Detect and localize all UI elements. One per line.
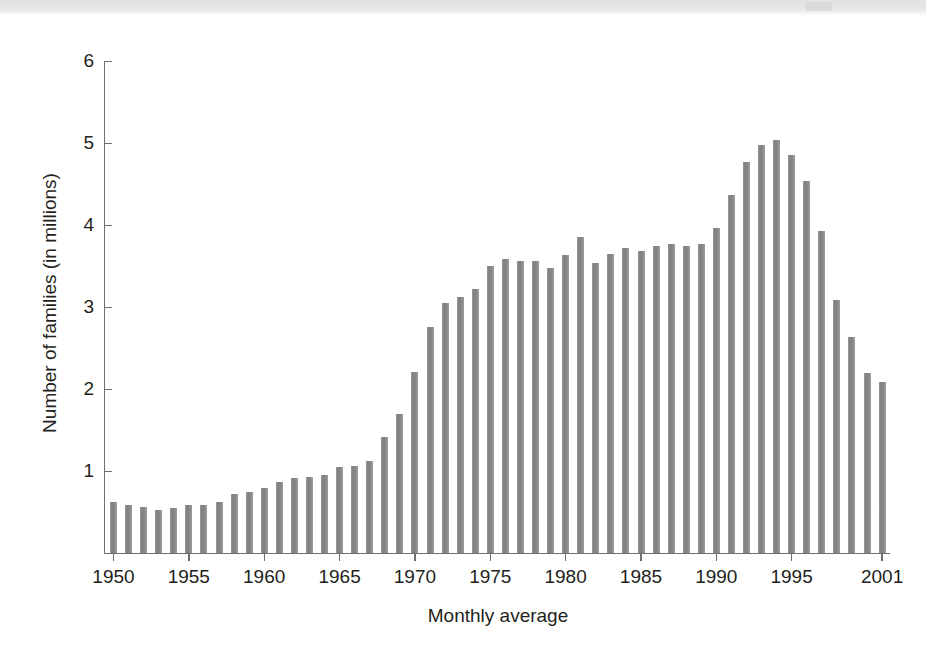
bar [577,237,584,553]
bar [653,246,660,554]
bar [607,254,614,553]
bar [185,505,192,553]
bar [200,505,207,553]
bar [668,244,675,553]
bar [638,251,645,553]
y-axis-tick-label: 2 [60,379,94,398]
bar [683,246,690,554]
x-axis-tick-label: 1960 [224,566,304,588]
bar [803,181,810,553]
bar [848,337,855,553]
page-scan-artifact [806,2,832,11]
bar [487,266,494,553]
bar [366,461,373,553]
y-axis-tick-label: 6 [60,51,94,70]
x-axis-tick [264,554,265,561]
bar [246,492,253,554]
x-axis-tick-label: 1995 [752,566,832,588]
plot-area: 123456 195019551960196519701975198019851… [0,15,926,661]
x-axis-tick-label: 1950 [74,566,154,588]
x-axis-tick-label: 1975 [450,566,530,588]
bar [396,414,403,553]
y-axis-tick-label: 3 [60,297,94,316]
bar [592,263,599,553]
x-axis-tick [716,554,717,561]
x-axis-tick [565,554,566,561]
bar [457,297,464,553]
y-axis-title: Number of families (in millions) [39,43,61,563]
x-axis-title: Monthly average [105,605,891,627]
bar [442,303,449,553]
bar [743,162,750,553]
bar [306,477,313,553]
bar [517,261,524,553]
bar [381,437,388,553]
bar-chart-figure: 123456 195019551960196519701975198019851… [0,15,926,661]
bar [728,195,735,553]
bar [532,261,539,553]
bar [698,244,705,553]
bar [788,155,795,553]
bar [155,510,162,554]
bar [773,140,780,553]
y-axis-tick-label: 1 [60,461,94,480]
y-axis-tick-label: 5 [60,133,94,152]
bar [276,482,283,553]
x-axis-tick [188,554,189,561]
bar [351,466,358,553]
bar [879,382,886,553]
x-axis-tick-label: 1985 [601,566,681,588]
bar [833,300,840,553]
x-axis-tick-label: 2001 [842,566,922,588]
bar [125,505,132,553]
page-scan-band [0,0,926,15]
bar [261,488,268,553]
x-axis-tick [414,554,415,561]
x-axis-tick-label: 1965 [300,566,380,588]
bar [110,502,117,553]
x-axis-tick [339,554,340,561]
x-axis-tick [640,554,641,561]
x-axis-tick-label: 1970 [375,566,455,588]
bar [547,268,554,553]
bar [864,373,871,553]
x-axis-tick-label: 1980 [526,566,606,588]
x-axis-tick [490,554,491,561]
bar [170,508,177,553]
bar [140,507,147,553]
bar [336,467,343,553]
bar [472,289,479,553]
y-axis-tick-label: 4 [60,215,94,234]
bar [427,327,434,553]
bar [231,494,238,553]
bar [502,259,509,553]
bar [321,475,328,553]
bar [713,228,720,554]
x-axis-tick [881,554,882,561]
bar [216,502,223,553]
bar [411,372,418,553]
bar [818,231,825,553]
bar [291,478,298,553]
bar [622,248,629,553]
x-axis-tick-label: 1955 [149,566,229,588]
bar [562,255,569,554]
x-axis-tick [113,554,114,561]
x-axis-line [104,553,890,554]
x-axis-tick-label: 1990 [676,566,756,588]
x-axis-tick [791,554,792,561]
bar [758,145,765,553]
